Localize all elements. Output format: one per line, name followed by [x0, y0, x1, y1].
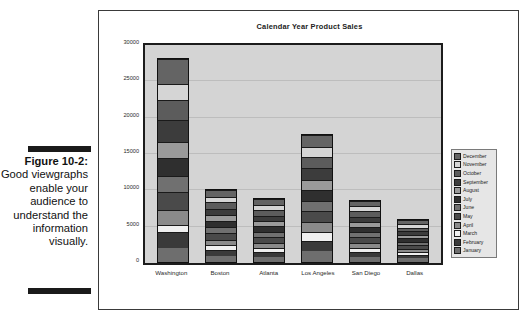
x-axis-tick: Dallas [399, 269, 431, 276]
bar-segment-march [302, 232, 332, 241]
bar-segment-january [158, 248, 188, 262]
bar-segment-july [158, 158, 188, 176]
bar-segment-february [302, 241, 332, 252]
legend-label: June [463, 205, 474, 210]
legend-label: October [463, 171, 481, 176]
y-axis-tick: 15000 [123, 148, 139, 156]
legend-swatch-icon [454, 196, 461, 203]
legend-label: February [463, 240, 483, 245]
bar-segment-september [302, 168, 332, 180]
bar-segment-january [302, 251, 332, 262]
legend-item-february[interactable]: February [454, 238, 494, 247]
bar-atlanta[interactable] [253, 198, 285, 263]
legend-swatch-icon [454, 187, 461, 194]
legend-item-october[interactable]: October [454, 169, 494, 178]
bar-segment-january [254, 257, 284, 262]
legend-swatch-icon [454, 170, 461, 177]
legend-item-august[interactable]: August [454, 186, 494, 195]
caption-rule-top [28, 146, 91, 152]
x-axis-tick-labels: WashingtonBostonAtlantaLos AngelesSan Di… [143, 269, 443, 276]
figure-number: Figure 10-2: [25, 155, 88, 167]
bar-segment-may [302, 211, 332, 222]
y-axis-tick: 5000 [127, 221, 139, 229]
legend-swatch-icon [454, 213, 461, 220]
legend-item-march[interactable]: March [454, 229, 494, 238]
legend-label: November [463, 162, 487, 167]
legend-swatch-icon [454, 239, 461, 246]
figure-caption-column: Figure 10-2: Good viewgraphs enable your… [0, 0, 96, 320]
bar-segment-may [158, 192, 188, 211]
bar-washington[interactable] [157, 58, 189, 263]
legend-label: January [463, 248, 481, 253]
legend-swatch-icon [454, 247, 461, 254]
y-axis-tick: 20000 [123, 112, 139, 120]
legend-swatch-icon [454, 153, 461, 160]
bar-segment-september [158, 120, 188, 143]
y-axis-tick-labels: 050001000015000200002500030000 [103, 43, 139, 265]
bar-segment-april [302, 222, 332, 231]
caption-body: Good viewgraphs enable your audience to … [1, 168, 88, 247]
bar-segment-october [302, 157, 332, 168]
legend-item-may[interactable]: May [454, 212, 494, 221]
legend-item-july[interactable]: July [454, 195, 494, 204]
bar-segment-august [158, 142, 188, 158]
legend-label: August [463, 188, 479, 193]
bar-boston[interactable] [205, 189, 237, 263]
bar-segment-june [158, 176, 188, 191]
y-axis-tick: 30000 [123, 39, 139, 47]
bar-segment-august [302, 180, 332, 190]
legend-label: May [463, 214, 473, 219]
legend-swatch-icon [454, 179, 461, 186]
chart-title: Calendar Year Product Sales [99, 22, 520, 31]
legend-swatch-icon [454, 204, 461, 211]
figure-frame: Calendar Year Product Sales 050001000015… [98, 10, 519, 310]
bar-segment-january [398, 258, 428, 262]
plot-area [143, 43, 443, 265]
legend-label: March [463, 231, 477, 236]
bar-segment-july [302, 190, 332, 201]
legend-item-december[interactable]: December [454, 152, 494, 161]
legend-swatch-icon [454, 230, 461, 237]
legend-item-september[interactable]: September [454, 178, 494, 187]
x-axis-tick: Washington [155, 269, 187, 276]
x-axis-tick: Atlanta [253, 269, 285, 276]
bar-series-container [145, 45, 441, 263]
bar-segment-january [350, 257, 380, 262]
bar-segment-january [206, 256, 236, 262]
bar-segment-april [158, 210, 188, 225]
x-axis-tick: San Diego [350, 269, 382, 276]
chart-legend: DecemberNovemberOctoberSeptemberAugustJu… [451, 149, 497, 258]
legend-item-june[interactable]: June [454, 204, 494, 213]
legend-item-november[interactable]: November [454, 161, 494, 170]
x-axis-tick: Boston [204, 269, 236, 276]
plot-wrapper: 050001000015000200002500030000 Washingto… [143, 43, 443, 279]
y-axis-tick: 0 [136, 257, 139, 265]
bar-san-diego[interactable] [349, 200, 381, 263]
legend-label: April [463, 223, 473, 228]
y-axis-tick: 25000 [123, 75, 139, 83]
bar-segment-november [302, 147, 332, 157]
bar-segment-february [158, 232, 188, 249]
caption-text: Figure 10-2: Good viewgraphs enable your… [0, 155, 88, 249]
bar-dallas[interactable] [397, 219, 429, 263]
bar-segment-october [158, 100, 188, 120]
bar-segment-november [158, 84, 188, 100]
legend-label: December [463, 154, 487, 159]
legend-swatch-icon [454, 161, 461, 168]
x-axis-tick: Los Angeles [301, 269, 333, 276]
y-axis-tick: 10000 [123, 184, 139, 192]
bar-segment-december [302, 135, 332, 147]
legend-label: September [463, 180, 488, 185]
legend-label: July [463, 197, 472, 202]
bar-segment-june [302, 201, 332, 211]
caption-rule-bottom [28, 288, 91, 294]
bar-segment-december [158, 59, 188, 84]
bar-los-angeles[interactable] [301, 134, 333, 263]
legend-swatch-icon [454, 222, 461, 229]
legend-item-april[interactable]: April [454, 221, 494, 230]
legend-item-january[interactable]: January [454, 247, 494, 256]
